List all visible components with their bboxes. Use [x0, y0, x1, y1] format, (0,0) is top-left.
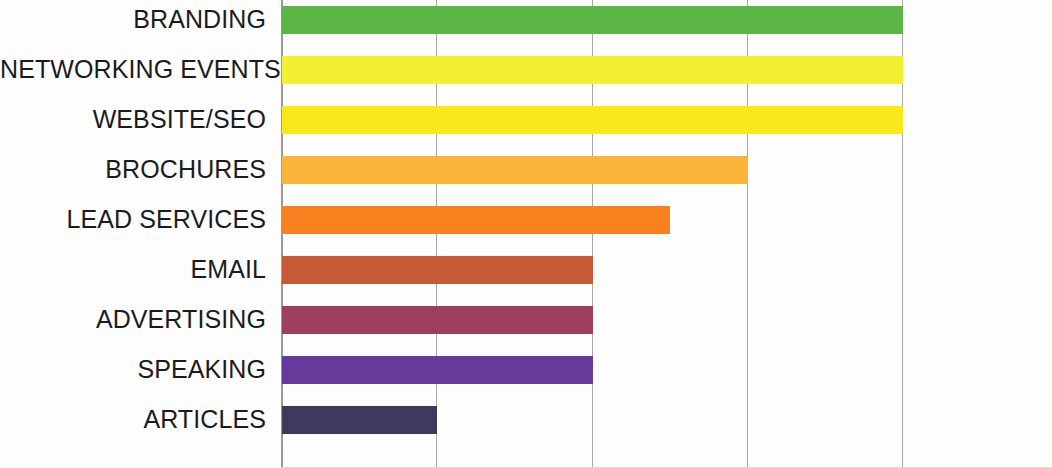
bar-branding — [282, 6, 903, 34]
bar-networking-events — [282, 56, 903, 84]
plot-area — [281, 0, 1052, 468]
category-label-column: BRANDINGNETWORKING EVENTSWEBSITE/SEOBROC… — [0, 0, 274, 468]
bar-website-seo — [282, 106, 903, 134]
category-label-networking-events: NETWORKING EVENTS — [0, 55, 266, 83]
category-label-lead-services: LEAD SERVICES — [0, 205, 266, 233]
bar-chart: BRANDINGNETWORKING EVENTSWEBSITE/SEOBROC… — [0, 0, 1052, 468]
bar-lead-services — [282, 206, 670, 234]
category-label-branding: BRANDING — [0, 5, 266, 33]
category-label-speaking: SPEAKING — [0, 355, 266, 383]
category-label-website-seo: WEBSITE/SEO — [0, 105, 266, 133]
category-label-brochures: BROCHURES — [0, 155, 266, 183]
category-label-articles: ARTICLES — [0, 405, 266, 433]
bar-articles — [282, 406, 437, 434]
category-label-email: EMAIL — [0, 255, 266, 283]
bar-brochures — [282, 156, 748, 184]
category-label-advertising: ADVERTISING — [0, 305, 266, 333]
bar-email — [282, 256, 593, 284]
bar-advertising — [282, 306, 593, 334]
bar-speaking — [282, 356, 593, 384]
